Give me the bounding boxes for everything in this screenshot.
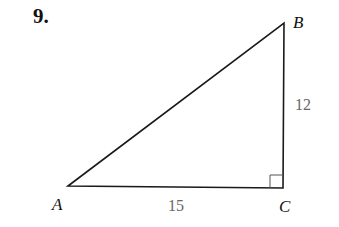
vertex-label-c: C <box>279 197 291 216</box>
vertex-label-a: A <box>51 195 63 214</box>
triangle-abc <box>68 23 284 188</box>
side-label-ac: 15 <box>168 197 184 214</box>
vertex-label-b: B <box>293 13 304 32</box>
right-angle-marker <box>270 175 283 188</box>
side-label-bc: 12 <box>295 96 311 113</box>
triangle-diagram: A B C 15 12 <box>0 0 339 227</box>
